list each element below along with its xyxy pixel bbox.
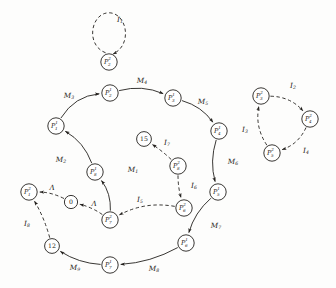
node-p5_2[interactable]: P25 <box>264 145 280 161</box>
edge-e_I6 <box>178 175 181 197</box>
node-label: P23 <box>255 90 263 100</box>
edge-label-e_M3: M3 <box>63 91 74 100</box>
diagram-canvas: P22P12P13P11P1415P18P28P15P210P26P2712P1… <box>0 0 336 288</box>
edges-layer <box>35 13 307 265</box>
edge-e_M2 <box>65 131 91 163</box>
node-label: 0 <box>69 198 73 205</box>
node-label: P22 <box>103 56 111 66</box>
node-label: P14 <box>213 125 221 135</box>
node-n12[interactable]: 12 <box>45 239 60 254</box>
edge-e_M6 <box>213 140 217 182</box>
edge-label-e_I1: I1 <box>116 15 123 24</box>
edge-label-e_M4: M4 <box>136 76 147 85</box>
node-p5_1[interactable]: P15 <box>210 184 226 200</box>
edge-label-e_I5: I5 <box>136 195 143 204</box>
edge-e_I5 <box>120 205 175 215</box>
edge-e_M4 <box>119 88 163 93</box>
node-p8_1[interactable]: P18 <box>87 164 103 180</box>
edge-label-e_L2: Λ <box>90 199 96 208</box>
node-label: P21 <box>23 186 31 196</box>
node-p3_2[interactable]: P23 <box>253 88 269 104</box>
node-label: P13 <box>167 92 175 102</box>
edge-label-e_I7: I7 <box>163 138 170 147</box>
edge-label-e_M2: M2 <box>55 155 66 164</box>
node-label: P17 <box>104 259 112 269</box>
node-p6_2[interactable]: P26 <box>176 200 192 216</box>
node-label: P25 <box>266 147 274 157</box>
edge-label-e_M1: M1 <box>127 165 138 174</box>
node-label: 12 <box>48 242 56 249</box>
edge-label-e_M7: M7 <box>210 221 221 230</box>
node-p4_1[interactable]: P14 <box>211 123 227 139</box>
node-p4_2[interactable]: P24 <box>302 111 318 127</box>
node-label: P12 <box>104 87 112 97</box>
node-label: P18 <box>89 166 97 176</box>
node-p3_1[interactable]: P13 <box>165 90 181 106</box>
node-label: P26 <box>178 202 186 212</box>
node-label: P16 <box>180 237 188 247</box>
node-p2_2[interactable]: P22 <box>101 54 117 70</box>
node-p1_1[interactable]: P11 <box>48 118 64 134</box>
edge-e_M1 <box>102 181 111 211</box>
edge-e_L1 <box>40 192 64 198</box>
edge-e_M7 <box>189 198 211 232</box>
node-p7_1[interactable]: P17 <box>102 257 118 273</box>
node-label: 15 <box>140 135 148 142</box>
graph-svg: P22P12P13P11P1415P18P28P15P210P26P2712P1… <box>0 0 336 288</box>
node-p6_1[interactable]: P16 <box>178 235 194 251</box>
edge-label-e_M9: M9 <box>69 263 80 272</box>
edge-label-e_I3: I3 <box>241 125 248 134</box>
edge-label-e_I8: I8 <box>23 219 30 228</box>
node-n15[interactable]: 15 <box>137 132 152 147</box>
node-label: P11 <box>50 120 58 130</box>
edge-label-e_M6: M6 <box>227 157 238 166</box>
node-n0[interactable]: 0 <box>64 195 77 208</box>
edge-e_M8 <box>121 248 178 265</box>
edge-e_M9 <box>60 251 100 264</box>
edge-e_I2 <box>270 96 303 111</box>
edge-e_I8 <box>35 201 50 237</box>
edge-label-e_M8: M8 <box>148 264 159 273</box>
edge-label-e_L1: Λ <box>48 183 54 192</box>
edge-label-e_I6: I6 <box>190 181 197 190</box>
node-p1_2[interactable]: P21 <box>21 184 37 200</box>
node-p8_2[interactable]: P28 <box>170 158 186 174</box>
node-label: P24 <box>304 113 312 123</box>
node-label: P15 <box>212 186 220 196</box>
node-p7_2[interactable]: P27 <box>102 212 118 228</box>
node-p2_1[interactable]: P12 <box>102 85 118 101</box>
edge-label-e_I4: I4 <box>302 146 309 155</box>
edge-e_I3 <box>258 107 267 146</box>
node-label: P27 <box>104 214 112 224</box>
edge-label-e_I2: I2 <box>289 81 296 90</box>
edge-label-e_M5: M5 <box>197 97 208 106</box>
node-label: P28 <box>172 160 180 170</box>
